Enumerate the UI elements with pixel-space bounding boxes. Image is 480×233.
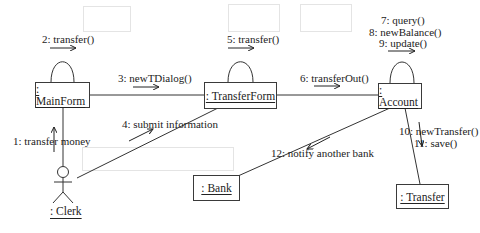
message-label-6: 6: transferOut(): [300, 72, 369, 84]
message-label-11: 11: save(): [414, 137, 457, 149]
clerk-actor-icon: [53, 167, 73, 204]
message-label-2: 2: transfer(): [42, 33, 94, 45]
object-transfer: : Transfer: [396, 184, 449, 209]
actor-clerk-label: : Clerk: [50, 205, 82, 217]
message-label-9: 9: update(): [379, 37, 427, 49]
link-account-bank: [238, 108, 390, 176]
object-label: : Transfer: [400, 191, 444, 203]
message-label-3: 3: newTDialog(): [118, 72, 192, 84]
message-label-12: 12: notify another bank: [271, 147, 374, 159]
object-label: : MainForm: [36, 83, 89, 107]
message-label-4: 4: submit information: [122, 118, 218, 130]
message-label-5: 5: transfer(): [227, 33, 279, 45]
message-label-1: 1: transfer money: [13, 135, 91, 147]
self-loop-mainform: [51, 62, 74, 82]
object-label: : Account: [379, 84, 421, 108]
object-bank: : Bank: [193, 175, 240, 201]
object-label: : TransferForm: [206, 90, 275, 102]
object-mainform: : MainForm: [35, 82, 90, 108]
message-label-7: 7: query(): [381, 14, 425, 26]
object-transferform: : TransferForm: [204, 82, 277, 109]
object-account: : Account: [378, 83, 422, 109]
self-loop-account: [390, 62, 414, 83]
self-loop-transferform: [228, 62, 253, 82]
arrow-msg-4: [129, 129, 153, 141]
object-label: : Bank: [201, 182, 231, 194]
message-label-10: 10: newTransfer(): [399, 125, 478, 137]
